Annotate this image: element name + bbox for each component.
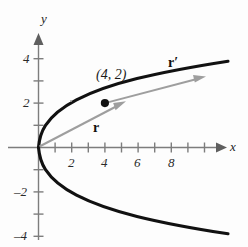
x-axis-arrowhead — [216, 143, 227, 153]
vector-r-shaft — [40, 106, 119, 147]
y-axis-label: y — [41, 12, 47, 25]
x-axis-label: x — [230, 140, 236, 153]
parabola-upper-branch-real — [39, 61, 229, 147]
vector-r — [40, 101, 127, 146]
x-tick-label-2: 2 — [68, 156, 75, 169]
plot-canvas — [0, 0, 248, 247]
y-tick-label-4: 4 — [23, 52, 30, 65]
image-speck — [70, 100, 72, 102]
point-coordinate-label: (4, 2) — [96, 68, 126, 82]
vector-r-prime-label: r′ — [168, 56, 178, 70]
y-axis-arrowhead — [34, 33, 44, 45]
vector-r-prime-arrowhead — [193, 75, 206, 83]
point-4-2-marker — [101, 99, 109, 107]
y-tick-label-2: 2 — [23, 96, 30, 109]
y-tick-label-minus-4: –4 — [14, 229, 27, 242]
y-tick-label-minus-2: –2 — [14, 185, 27, 198]
x-tick-label-4: 4 — [101, 156, 108, 169]
x-tick-label-6: 6 — [134, 156, 141, 169]
vector-r-label: r — [93, 121, 99, 135]
parabola-vector-figure: y x 4 2 –2 –4 2 4 6 8 (4, 2) r r′ — [0, 0, 248, 247]
vector-r-arrowhead — [113, 101, 126, 110]
x-tick-label-8: 8 — [168, 156, 175, 169]
